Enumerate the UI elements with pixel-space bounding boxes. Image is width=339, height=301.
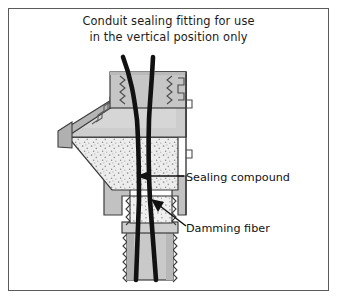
damming-fiber-label: Damming fiber	[186, 222, 270, 235]
sealing-fitting-illustration	[0, 0, 339, 301]
sealing-compound-label: Sealing compound	[186, 171, 290, 184]
figure-canvas: Conduit sealing fitting for use in the v…	[0, 0, 339, 301]
lower-threaded-conduit	[123, 232, 177, 282]
fitting-right-outer-wall	[186, 72, 192, 215]
sealing-compound-chamber	[68, 137, 178, 190]
